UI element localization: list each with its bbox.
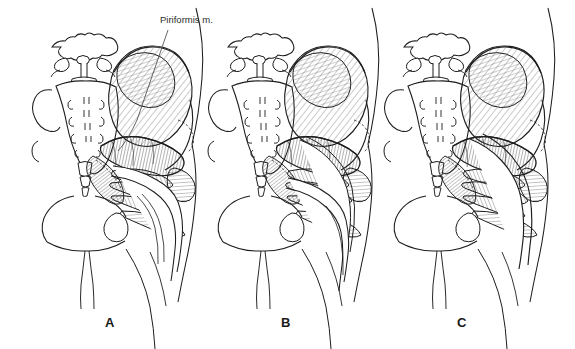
sciatic-nerve-piriformis-figure: A B C [0, 0, 575, 349]
panel-letter-b: B [281, 315, 290, 330]
piriformis-label: Piriformis m. [160, 14, 213, 25]
panel-letter-c: C [457, 315, 467, 330]
panel-a: A [32, 8, 203, 349]
panel-b: B [208, 8, 379, 349]
panel-c: C [384, 8, 555, 349]
panel-letter-a: A [105, 315, 115, 330]
